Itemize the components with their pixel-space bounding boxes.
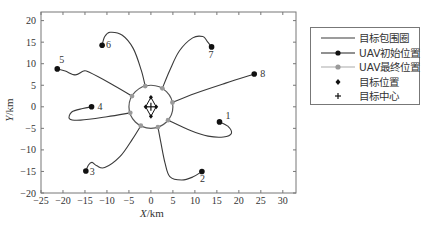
uav-id-label: 2 <box>200 173 205 184</box>
y-tick-label: 10 <box>26 58 36 69</box>
x-tick-label: 20 <box>234 195 244 206</box>
x-tick-label: 5 <box>170 195 175 206</box>
uav-id-label: 8 <box>260 68 265 79</box>
legend-label: 目标包围圈 <box>359 31 409 45</box>
line-icon <box>319 31 359 45</box>
y-tick-label: −20 <box>20 188 36 199</box>
x-tick-label: 10 <box>190 195 200 206</box>
legend-item-target-center: 目标中心 <box>311 89 419 103</box>
x-tick-label: 15 <box>212 195 222 206</box>
legend-item-encirclement: 目标包围圈 <box>311 31 419 45</box>
y-axis-title: Y/km <box>3 98 15 122</box>
uav-final-marker <box>170 100 175 105</box>
x-tick-label: 0 <box>148 195 153 206</box>
line-dot-gray-icon <box>319 60 359 74</box>
legend-label: UAV初始位置 <box>359 46 420 60</box>
legend-label: 目标位置 <box>359 75 399 89</box>
uav-final-marker <box>166 118 171 123</box>
legend-item-uav-initial: UAV初始位置 <box>311 46 419 60</box>
trajectory-uav-3 <box>86 126 141 171</box>
uav-id-label: 1 <box>226 110 231 121</box>
trajectory-uav-2 <box>158 127 202 180</box>
legend: 目标包围圈 UAV初始位置 UAV最终位置 目标位置 目标中心 <box>310 27 420 105</box>
uav-final-marker <box>143 84 148 89</box>
x-axis-title: X/km <box>139 207 164 219</box>
x-tick-label: −15 <box>77 195 93 206</box>
diamond-icon <box>319 75 359 89</box>
axis-ticks: −25−20−15−10−5051015202530−20−15−10−5051… <box>20 12 296 206</box>
uav-id-label: 6 <box>106 39 111 50</box>
x-tick-label: −20 <box>55 195 71 206</box>
uav-id-label: 3 <box>90 166 95 177</box>
line-dot-black-icon <box>319 46 359 60</box>
uav-initial-marker <box>89 104 95 110</box>
plus-icon <box>319 89 359 103</box>
uav-final-marker <box>128 110 133 115</box>
trajectory-uav-8 <box>172 74 254 102</box>
uav-final-marker <box>156 125 161 130</box>
legend-item-uav-final: UAV最终位置 <box>311 60 419 74</box>
uav-id-label: 4 <box>98 101 103 112</box>
x-tick-label: 25 <box>256 195 266 206</box>
uav-initial-marker <box>54 66 60 72</box>
x-tick-label: 30 <box>278 195 288 206</box>
uav-initial-marker <box>83 168 89 174</box>
trajectory-uav-5 <box>57 69 132 96</box>
legend-item-target-position: 目标位置 <box>311 75 419 89</box>
legend-label: 目标中心 <box>359 89 399 103</box>
uav-id-label: 5 <box>59 54 64 65</box>
target-markers <box>144 95 159 119</box>
x-tick-label: −10 <box>99 195 115 206</box>
plot-frame <box>41 12 296 193</box>
trajectory-uav-7 <box>162 36 211 88</box>
y-tick-label: 0 <box>31 101 36 112</box>
x-tick-label: −5 <box>124 195 135 206</box>
uav-initial-marker <box>217 119 223 125</box>
y-tick-label: −15 <box>20 166 36 177</box>
legend-label: UAV最终位置 <box>359 60 420 74</box>
uav-initial-marker <box>251 71 257 77</box>
y-tick-label: 15 <box>26 37 36 48</box>
uav-initial-marker <box>99 42 105 48</box>
y-tick-label: −5 <box>25 123 36 134</box>
plot-border <box>41 12 296 193</box>
y-tick-label: 5 <box>31 80 36 91</box>
uav-final-marker <box>138 123 143 128</box>
uav-id-label: 7 <box>209 49 214 60</box>
y-tick-label: 20 <box>26 15 36 26</box>
y-tick-label: −10 <box>20 144 36 155</box>
uav-final-marker <box>160 86 165 91</box>
uav-markers: 12345678 <box>54 39 265 184</box>
uav-final-marker <box>130 94 135 99</box>
